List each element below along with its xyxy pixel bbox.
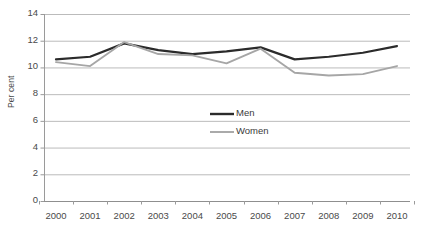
line-chart: Per cent 02468101214 2000200120022003200… xyxy=(0,0,424,239)
x-tick-label: 2002 xyxy=(114,210,135,221)
legend-swatch-women xyxy=(208,126,236,138)
x-tick-label: 2010 xyxy=(386,210,407,221)
legend-label-women: Women xyxy=(236,125,269,136)
x-tick-label: 2004 xyxy=(182,210,203,221)
x-tick-label: 2008 xyxy=(318,210,339,221)
x-tick-label: 2007 xyxy=(284,210,305,221)
legend-label-men: Men xyxy=(236,107,254,118)
x-tick-label: 2009 xyxy=(352,210,373,221)
legend-swatch-men xyxy=(208,108,236,120)
x-tick-label: 2001 xyxy=(80,210,101,221)
x-tick-label: 2006 xyxy=(250,210,271,221)
x-tick-label: 2000 xyxy=(45,210,66,221)
x-tick-label: 2003 xyxy=(148,210,169,221)
x-tick-label: 2005 xyxy=(216,210,237,221)
